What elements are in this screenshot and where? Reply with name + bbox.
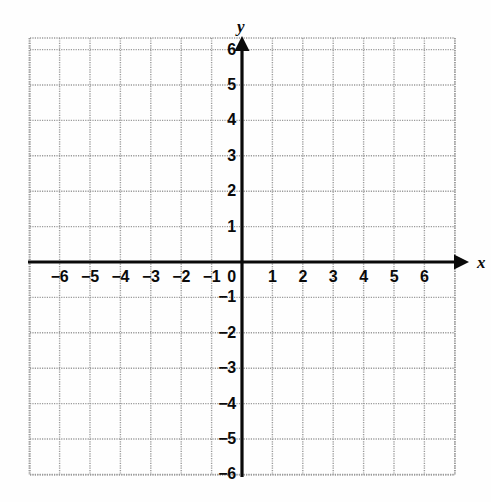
x-tick-label: −4	[111, 269, 129, 285]
x-tick-label: −1	[203, 269, 221, 285]
axis-lines	[28, 36, 469, 477]
origin-label: 0	[227, 269, 236, 285]
x-axis-arrowhead	[454, 255, 469, 270]
y-tick-label: −1	[218, 289, 236, 305]
x-tick-label: 5	[390, 269, 399, 285]
y-tick-label: −5	[218, 431, 236, 447]
x-tick-label: −6	[51, 269, 69, 285]
y-tick-label: 1	[227, 219, 236, 235]
y-tick-label: −2	[218, 325, 236, 341]
y-tick-label: 5	[227, 77, 236, 93]
x-axis-name-label: x	[477, 254, 486, 271]
y-tick-label: 3	[227, 148, 236, 164]
x-tick-label: −3	[142, 269, 160, 285]
x-tick-label: 6	[420, 269, 429, 285]
y-tick-label: −4	[218, 396, 236, 412]
coordinate-plane-figure: −6−5−4−3−2−1123456 654321−1−2−3−4−5−6 0 …	[0, 0, 491, 502]
y-tick-label: 2	[227, 183, 236, 199]
x-tick-label: 1	[268, 269, 277, 285]
y-tick-label: −3	[218, 360, 236, 376]
x-tick-label: 4	[359, 269, 368, 285]
x-tick-label: −2	[172, 269, 190, 285]
y-tick-label: 6	[227, 42, 236, 58]
plot-canvas	[0, 0, 491, 502]
y-axis-name-label: y	[237, 18, 245, 35]
y-tick-label: 4	[227, 112, 236, 128]
x-tick-label: 2	[298, 269, 307, 285]
y-tick-label: −6	[218, 466, 236, 482]
x-tick-label: −5	[81, 269, 99, 285]
x-tick-label: 3	[329, 269, 338, 285]
